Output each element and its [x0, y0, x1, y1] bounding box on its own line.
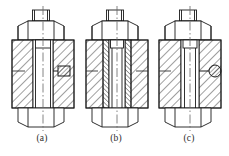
- figure-caption-c: (c): [161, 133, 217, 143]
- plate-block-left-a: [12, 40, 33, 108]
- figure-c: [155, 4, 225, 132]
- stud-thread-end-b: [107, 10, 124, 21]
- bushing-right-b: [125, 40, 131, 108]
- plate-block-left-b: [86, 40, 103, 108]
- figure-sheet: (a) (b) (c): [0, 0, 229, 156]
- lower-hex-nut-b: [92, 108, 138, 127]
- figure-caption-a: (a): [14, 133, 70, 143]
- plate-block-right-b: [131, 40, 148, 108]
- figure-caption-b: (b): [88, 133, 144, 143]
- stud-thread-end-a: [33, 10, 50, 21]
- figure-b: [82, 4, 152, 132]
- lower-hex-nut-a: [18, 108, 64, 127]
- lower-hex-nut-c: [165, 108, 211, 127]
- plate-block-left-c: [159, 40, 181, 108]
- stud-thread-end-c: [180, 10, 197, 21]
- figure-a: [8, 4, 78, 132]
- top-hex-nut-b: [92, 21, 138, 40]
- top-hex-nut-a: [18, 21, 64, 40]
- bushing-left-b: [103, 40, 109, 108]
- top-hex-nut-c: [165, 21, 211, 40]
